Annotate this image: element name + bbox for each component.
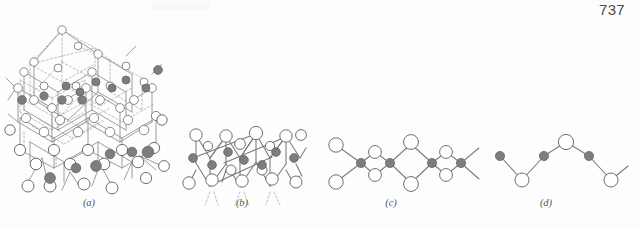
open-atom xyxy=(329,138,343,152)
panel-b-structure xyxy=(183,126,307,205)
panel-caption-b: (b) xyxy=(228,198,256,209)
panel-a-open-atoms-back xyxy=(14,26,161,137)
filled-atom xyxy=(385,158,394,167)
figure-page: 737 .bond { stroke:#7a7a7a; stroke-width… xyxy=(0,0,639,228)
filled-atom xyxy=(356,158,365,167)
panel-d-filled-atoms xyxy=(495,151,593,160)
open-atom xyxy=(515,173,529,187)
panel-d-open-atoms xyxy=(515,134,618,187)
panel-a-structure xyxy=(5,26,170,194)
open-atom xyxy=(604,173,618,187)
open-atom xyxy=(440,146,453,159)
filled-atom xyxy=(584,151,593,160)
open-atom xyxy=(440,169,453,182)
filled-atom xyxy=(539,151,548,160)
open-atom xyxy=(369,169,382,182)
filled-atom xyxy=(456,158,465,167)
filled-atom xyxy=(495,151,504,160)
figure-illustration: .bond { stroke:#7a7a7a; stroke-width:1.0… xyxy=(0,0,639,228)
open-atom xyxy=(558,134,573,149)
panel-c-filled-atoms xyxy=(356,158,465,167)
panel-caption-d: (d) xyxy=(532,198,560,209)
open-atom xyxy=(369,146,382,159)
panel-caption-c: (c) xyxy=(377,198,405,209)
open-atom xyxy=(329,175,343,189)
filled-atom xyxy=(427,158,436,167)
panel-c-structure xyxy=(329,135,479,192)
panel-caption-a: (a) xyxy=(75,198,103,209)
open-atom xyxy=(404,177,419,192)
open-atom xyxy=(404,135,419,150)
panel-d-structure xyxy=(495,134,628,187)
